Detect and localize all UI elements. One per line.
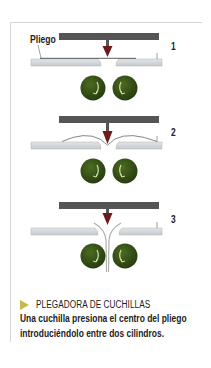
step-number-1: 1 [171,40,176,52]
knife-bar [59,33,159,40]
play-triangle-icon [20,300,29,310]
left-plate [31,228,98,235]
roller-left-icon [81,244,106,269]
knife-bar [59,202,159,209]
caption-body-line-1: Una cuchilla presiona el centro del plie… [20,312,172,327]
knife-tip-icon [103,46,113,57]
step-number-2: 2 [171,126,176,138]
step-2 [31,116,162,184]
rollers [81,159,138,184]
right-plate [119,228,162,235]
left-plate [31,59,101,66]
knife-bar [59,116,159,123]
folding-diagram [0,0,211,300]
roller-right-icon [113,76,138,101]
caption: PLEGADORA DE CUCHILLAS Una cuchilla pres… [20,298,205,341]
caption-title: PLEGADORA DE CUCHILLAS [36,299,150,310]
step-number-3: 3 [171,213,176,225]
pliego-leader-line [38,45,41,58]
roller-right-icon [113,244,138,269]
caption-body-line-2: introduciéndolo entre dos cilindros. [20,327,172,342]
sheet-label: Pliego [30,33,56,45]
step-3 [31,202,162,272]
roller-left-icon [81,159,106,184]
caption-title-row: PLEGADORA DE CUCHILLAS [20,298,205,311]
roller-left-icon [81,76,106,101]
right-plate [116,142,162,149]
knife-tip-icon [103,213,113,225]
left-plate [31,142,101,149]
right-plate [116,59,162,66]
roller-right-icon [113,159,138,184]
rollers [81,76,138,101]
